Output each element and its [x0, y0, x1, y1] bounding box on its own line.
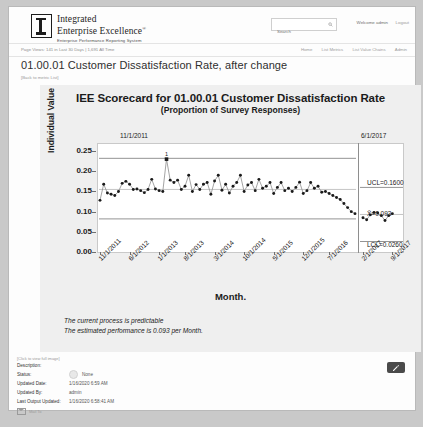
x-tick-mark	[274, 252, 275, 255]
y-tick-mark	[92, 171, 96, 172]
y-tick-mark	[92, 232, 96, 233]
y-tick-mark	[92, 252, 96, 253]
mail-to-label: Mail To	[29, 409, 42, 414]
scorecard-chart[interactable]: IEE Scorecard for 01.00.01 Customer Diss…	[40, 85, 421, 352]
y-tick-label: 0.05	[62, 227, 92, 236]
chart-note-1: The current process is predictable	[64, 317, 163, 324]
mail-icon	[17, 408, 26, 415]
back-to-metric-list-link[interactable]: [Back to metric List]	[21, 75, 59, 80]
search-input[interactable]	[275, 26, 325, 37]
stage-1-date-label: 11/1/2011	[120, 132, 148, 139]
chart-title: IEE Scorecard for 01.00.01 Customer Diss…	[40, 85, 421, 104]
meta-row-updated-date: Updated Date: 1/16/2020 6:59 AM	[17, 379, 407, 388]
meta-row-updated-by: Updated By: admin	[17, 388, 407, 397]
y-tick-label: 0.25	[62, 146, 92, 155]
x-axis-title: Month.	[40, 291, 421, 302]
y-tick-mark	[92, 212, 96, 213]
meta-row-description: Description:	[17, 361, 407, 370]
nav-item-home[interactable]: Home	[301, 47, 312, 52]
brand-tagline: Enterprise Performance Reporting System	[57, 38, 146, 43]
sub-header: Page Views: 141 in Last 30 Days | 1,691 …	[9, 44, 415, 57]
app-page: Integrated Enterprise Excellence® Enterp…	[8, 6, 416, 411]
x-tick-mark	[392, 252, 393, 255]
meta-row-last-output-updated: Last Output Updated: 1/16/2020 6:58:41 A…	[17, 397, 407, 406]
logout-link[interactable]: Logout	[396, 20, 409, 25]
meta-row-status: Status: None	[17, 370, 407, 379]
chart-subtitle: (Proportion of Survey Responses)	[40, 105, 421, 115]
y-tick-mark	[92, 191, 96, 192]
nav-item-list-metrics[interactable]: List Metrics	[322, 47, 344, 52]
meta-label-description: Description:	[17, 363, 69, 368]
x-tick-mark	[130, 252, 131, 255]
x-tick-mark	[244, 252, 245, 255]
y-axis-ticks: 0.000.050.100.150.200.25	[60, 85, 92, 352]
page-title: 01.00.01 Customer Dissatisfaction Rate, …	[21, 59, 287, 71]
y-tick-label: 0.10	[62, 207, 92, 216]
iee-logo-icon	[31, 14, 52, 38]
meta-value-last-output-updated: 1/16/2020 6:58:41 AM	[69, 399, 114, 404]
welcome-label: Welcome admin	[357, 20, 388, 25]
meta-value-updated-date: 1/16/2020 6:59 AM	[69, 381, 108, 386]
nav-item-admin[interactable]: Admin	[395, 47, 407, 52]
nav-item-list-value-chains[interactable]: List Value Chains	[352, 47, 385, 52]
brand-line-2: Enterprise Excellence®	[57, 24, 146, 36]
y-tick-label: 0.15	[62, 186, 92, 195]
y-tick-label: 0.00	[62, 247, 92, 256]
search-icon[interactable]	[328, 22, 333, 27]
x-tick-mark	[159, 252, 160, 255]
stage-divider	[358, 143, 359, 253]
meta-label-last-output-updated: Last Output Updated:	[17, 399, 69, 404]
y-axis-title: Individual Value	[46, 88, 56, 153]
stage-2-date-label: 6/1/2017	[361, 132, 386, 139]
brand-logo[interactable]: Integrated Enterprise Excellence® Enterp…	[31, 14, 146, 43]
x-tick-mark	[329, 252, 330, 255]
meta-label-updated-by: Updated By:	[17, 390, 69, 395]
brand-line-1: Integrated	[57, 14, 146, 24]
site-header: Integrated Enterprise Excellence® Enterp…	[9, 7, 415, 44]
status-badge: None	[82, 372, 93, 377]
ucl-label: UCL=0.1600	[367, 179, 404, 186]
registered-mark: ®	[142, 26, 146, 31]
y-tick-mark	[92, 151, 96, 152]
edit-button[interactable]	[387, 362, 405, 373]
meta-label-updated-date: Updated Date:	[17, 381, 69, 386]
meta-value-updated-by: admin	[69, 390, 82, 395]
page-views-label: Page Views: 141 in Last 30 Days | 1,691 …	[21, 47, 114, 52]
chart-note-2: The estimated performance is 0.093 per M…	[64, 327, 203, 334]
x-tick-mark	[215, 252, 216, 255]
x-tick-mark	[185, 252, 186, 255]
y-tick-label: 0.20	[62, 166, 92, 175]
center-line-label: X̄=0.093	[367, 210, 391, 217]
x-tick-mark	[100, 252, 101, 255]
pencil-icon	[392, 364, 400, 372]
primary-nav: Home List Metrics List Value Chains Admi…	[293, 47, 407, 52]
plot-area-stage-2	[358, 143, 404, 253]
search-box[interactable]	[271, 18, 337, 31]
mail-to-button[interactable]: Mail To	[17, 408, 407, 415]
x-tick-mark	[363, 252, 364, 255]
meta-label-status: Status:	[17, 372, 69, 377]
status-indicator-icon	[69, 370, 78, 379]
x-tick-mark	[303, 252, 304, 255]
metric-metadata-panel: [Click to view full image] Description: …	[17, 356, 407, 406]
